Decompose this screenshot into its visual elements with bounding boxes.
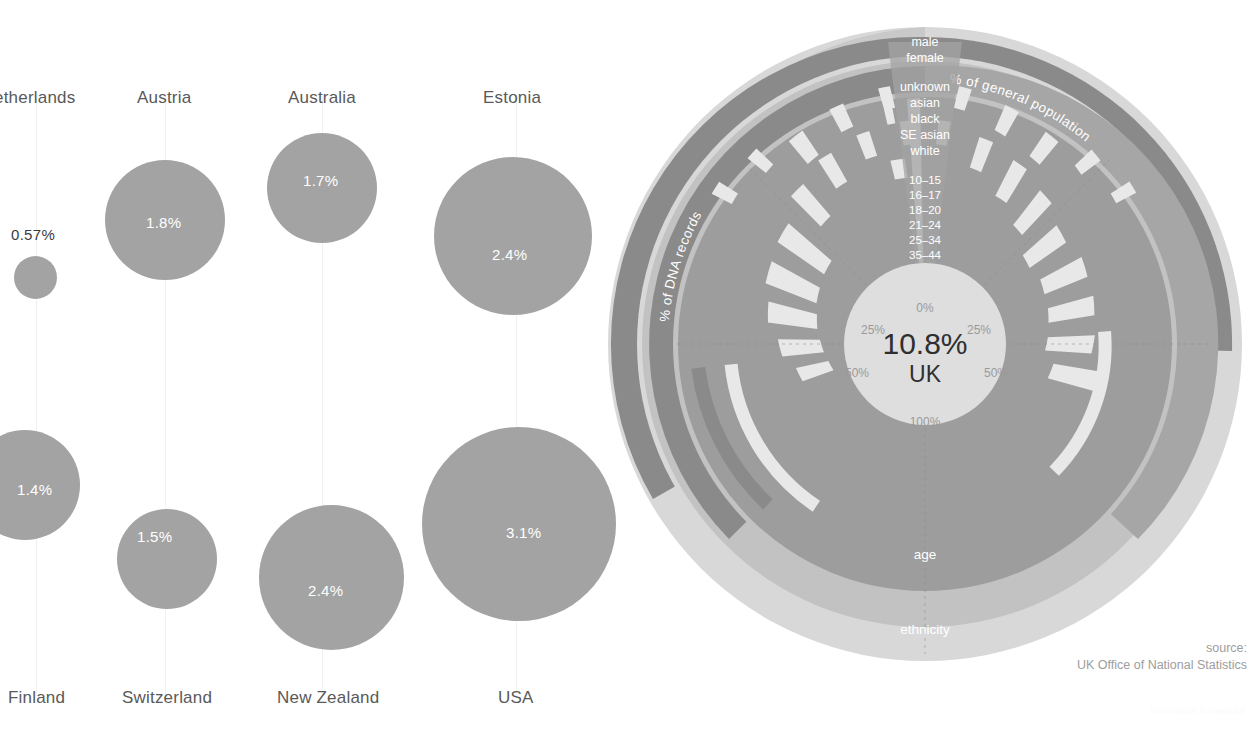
cat-label-unknown: unknown bbox=[900, 80, 950, 94]
scale-0: 0% bbox=[916, 301, 934, 315]
cat-label-se-asian: SE asian bbox=[900, 128, 950, 142]
bubble-switzerland[interactable] bbox=[117, 509, 217, 609]
bubble-label-finland: Finland bbox=[8, 688, 65, 708]
bubble-chart-panel: etherlands Austria Australia Estonia 0.5… bbox=[0, 0, 640, 736]
cat-label-10-15: 10–15 bbox=[909, 174, 941, 186]
scale-100: 100% bbox=[910, 415, 941, 429]
bubble-value-usa: 3.1% bbox=[506, 524, 541, 541]
bubble-label-netherlands: etherlands bbox=[0, 88, 75, 108]
cat-label-16-17: 16–17 bbox=[909, 189, 941, 201]
cat-label-black: black bbox=[910, 112, 940, 126]
bubble-value-austria: 1.8% bbox=[146, 214, 181, 231]
bubble-estonia[interactable] bbox=[434, 157, 592, 315]
center-percentage: 10.8% bbox=[882, 327, 967, 360]
center-country: UK bbox=[909, 361, 942, 387]
cat-label-18-20: 18–20 bbox=[909, 204, 941, 216]
scale-25-right: 25% bbox=[967, 323, 991, 337]
bubble-label-usa: USA bbox=[498, 688, 534, 708]
bubble-value-netherlands: 0.57% bbox=[11, 226, 55, 243]
scale-50-right: 50% bbox=[984, 366, 1008, 380]
cat-label-35-44: 35–44 bbox=[909, 249, 942, 261]
cat-label-female: female bbox=[906, 51, 944, 65]
bubble-value-switzerland: 1.5% bbox=[137, 528, 172, 545]
cat-label-white: white bbox=[909, 144, 939, 158]
bubble-netherlands[interactable] bbox=[14, 256, 57, 299]
bubble-value-estonia: 2.4% bbox=[492, 246, 527, 263]
bubble-label-austria: Austria bbox=[137, 88, 191, 108]
cat-label-25-34: 25–34 bbox=[909, 234, 942, 246]
bubble-new-zealand[interactable] bbox=[259, 505, 404, 650]
bubble-label-new-zealand: New Zealand bbox=[277, 688, 379, 708]
bubble-label-switzerland: Switzerland bbox=[122, 688, 212, 708]
infographic-canvas: etherlands Austria Australia Estonia 0.5… bbox=[0, 0, 1253, 736]
bubble-value-finland: 1.4% bbox=[17, 481, 52, 498]
scale-50-left: 50% bbox=[845, 366, 869, 380]
source-name: UK Office of National Statistics bbox=[1077, 657, 1247, 674]
cat-label-21-24: 21–24 bbox=[909, 219, 942, 231]
radial-chart-panel: % of DNA records % of general population bbox=[608, 0, 1253, 684]
cat-label-male: male bbox=[911, 35, 938, 49]
source-attribution: source: UK Office of National Statistics bbox=[1077, 640, 1247, 674]
credit-line: information is beautiful bbox=[1150, 706, 1245, 716]
guide-line bbox=[36, 96, 37, 696]
cat-label-asian: asian bbox=[910, 96, 940, 110]
group-label-sex: sex bbox=[914, 660, 935, 675]
group-label-ethnicity: ethnicity bbox=[900, 622, 950, 637]
bubble-value-new-zealand: 2.4% bbox=[308, 582, 343, 599]
source-prefix: source: bbox=[1077, 640, 1247, 657]
bubble-value-australia: 1.7% bbox=[303, 172, 338, 189]
group-label-age: age bbox=[914, 547, 937, 562]
bubble-label-australia: Australia bbox=[288, 88, 356, 108]
bubble-label-estonia: Estonia bbox=[483, 88, 541, 108]
